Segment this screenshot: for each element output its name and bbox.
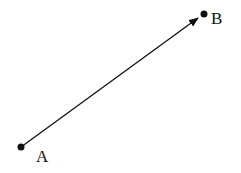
- vector-diagram: A B: [0, 0, 241, 173]
- point-a-dot: [18, 144, 25, 151]
- point-a-label: A: [36, 148, 48, 165]
- point-b-label: B: [211, 10, 222, 27]
- point-b-dot: [201, 11, 208, 18]
- vector-arrow-a-to-b: [21, 18, 198, 147]
